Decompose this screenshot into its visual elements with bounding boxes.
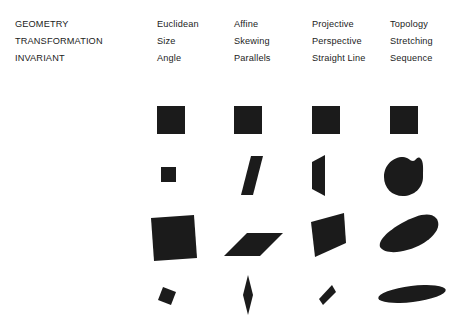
column-1-geometry: Euclidean [157,19,199,30]
square-shape [312,106,340,134]
column-3-invariant: Straight Line [312,53,366,64]
shape-cell-r3c4 [374,205,452,267]
column-1-invariant: Angle [157,53,181,64]
elongated-blob-shape [380,214,439,252]
column-3-geometry: Projective [312,19,354,30]
header-text-table: GEOMETRY TRANSFORMATION INVARIANT Euclid… [0,0,462,85]
tiny-rotated-square-shape [158,287,176,305]
square-shape [157,106,185,134]
shape-cell-r4c1 [140,275,218,333]
shape-grid [0,85,462,333]
round-blob-shape [384,157,423,196]
row-label-invariant: INVARIANT [15,53,65,64]
shape-cell-r4c2 [218,275,296,333]
shape-cell-r1c4 [374,97,452,159]
irregular-quadrilateral-shape [311,213,346,257]
square-shape [390,106,418,134]
row-label-transformation: TRANSFORMATION [15,36,103,47]
large-rotated-square-shape [151,215,197,261]
column-3-transformation: Perspective [312,36,362,47]
column-2-geometry: Affine [234,19,258,30]
thin-sliver-quadrilateral-shape [319,285,336,305]
trapezoid-shape [312,155,325,196]
square-shape [234,106,262,134]
shape-cell-r1c3 [296,97,374,159]
thin-diamond-shape [243,275,253,315]
shape-cell-r1c2 [218,97,296,159]
column-4-transformation: Stretching [390,36,433,47]
column-2-transformation: Skewing [234,36,270,47]
shape-cell-r4c3 [296,275,374,333]
shape-cell-r1c1 [140,97,218,159]
flat-ellipse-shape [377,282,446,306]
column-2-invariant: Parallels [234,53,271,64]
flat-parallelogram-shape [224,233,283,256]
small-square-shape [161,167,176,182]
column-1-transformation: Size [157,36,175,47]
column-4-geometry: Topology [390,19,428,30]
parallelogram-shape [241,156,263,195]
geometry-hierarchy-diagram: GEOMETRY TRANSFORMATION INVARIANT Euclid… [0,0,462,333]
shape-cell-r3c1 [140,205,218,267]
shape-cell-r3c3 [296,205,374,267]
row-label-geometry: GEOMETRY [15,19,69,30]
shape-cell-r3c2 [218,205,296,267]
column-4-invariant: Sequence [390,53,433,64]
shape-cell-r4c4 [374,275,452,333]
